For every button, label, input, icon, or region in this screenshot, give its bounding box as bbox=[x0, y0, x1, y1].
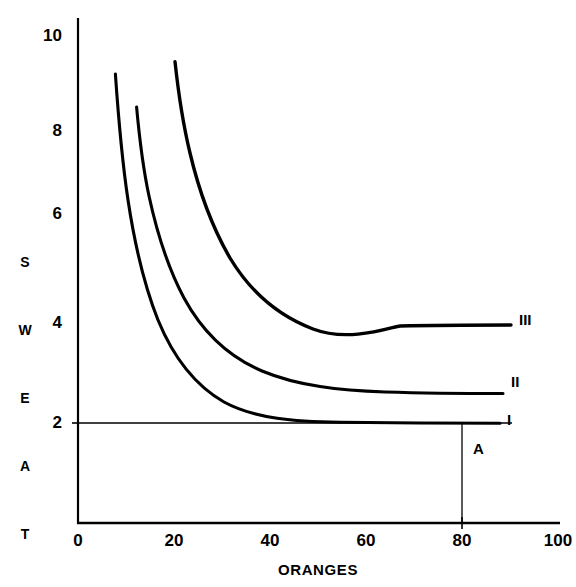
curve-i bbox=[115, 74, 500, 423]
xtick-label-100: 100 bbox=[535, 532, 576, 549]
y-axis-title: S W E A T E R S bbox=[14, 183, 36, 587]
curve-label-ii: II bbox=[511, 374, 519, 389]
plot-area bbox=[0, 0, 576, 587]
ytick-label-8: 8 bbox=[22, 122, 62, 139]
xtick-label-20: 20 bbox=[151, 532, 197, 549]
xtick-label-60: 60 bbox=[343, 532, 389, 549]
xtick-label-80: 80 bbox=[439, 532, 485, 549]
xtick-label-40: 40 bbox=[247, 532, 293, 549]
y-axis-title-letter-3: E bbox=[14, 387, 36, 410]
curve-label-i: I bbox=[507, 412, 511, 427]
curve-label-iii: III bbox=[519, 312, 532, 327]
curve-iii bbox=[175, 62, 511, 335]
x-axis-title: ORANGES bbox=[218, 562, 418, 577]
indifference-curve-chart: 10 8 6 4 2 0 20 40 60 80 100 ORANGES S W… bbox=[0, 0, 576, 587]
curve-ii bbox=[137, 107, 503, 393]
y-axis-title-letter-2: W bbox=[14, 319, 36, 342]
y-axis-title-letter-5: T bbox=[14, 523, 36, 546]
point-a-label: A bbox=[473, 441, 484, 456]
ytick-label-10: 10 bbox=[22, 27, 62, 44]
y-axis-title-letter-4: A bbox=[14, 455, 36, 478]
xtick-label-0: 0 bbox=[55, 532, 101, 549]
y-axis-title-letter-1: S bbox=[14, 251, 36, 274]
